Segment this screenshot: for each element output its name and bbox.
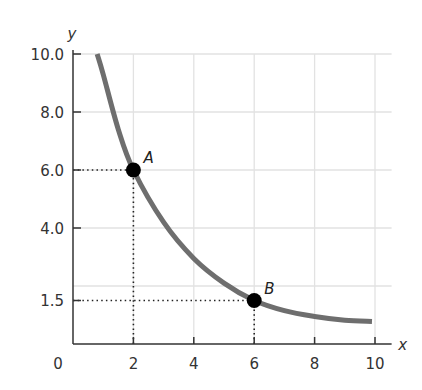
y-tick-label: 8.0	[40, 104, 64, 122]
point-b-marker	[247, 293, 262, 308]
reference-lines	[73, 170, 254, 344]
x-tick-label: 8	[310, 355, 320, 373]
y-tick-label: 6.0	[40, 162, 64, 180]
point-b-label: B	[264, 280, 274, 298]
x-tick-label: 4	[189, 355, 199, 373]
y-tick-label: 1.5	[40, 292, 64, 310]
x-tick-label: 0	[53, 355, 63, 373]
x-tick-label: 10	[365, 355, 384, 373]
y-tick-label: 10.0	[31, 46, 64, 64]
x-axis-label: x	[397, 336, 407, 354]
chart: AB 1.54.06.08.010.00246810yx	[0, 0, 422, 390]
curve-line	[97, 54, 372, 321]
y-tick-label: 4.0	[40, 220, 64, 238]
x-tick-label: 2	[129, 355, 139, 373]
point-a-marker	[126, 163, 141, 178]
x-tick-label: 6	[249, 355, 259, 373]
point-a-label: A	[142, 149, 153, 167]
y-axis-label: y	[67, 25, 78, 43]
